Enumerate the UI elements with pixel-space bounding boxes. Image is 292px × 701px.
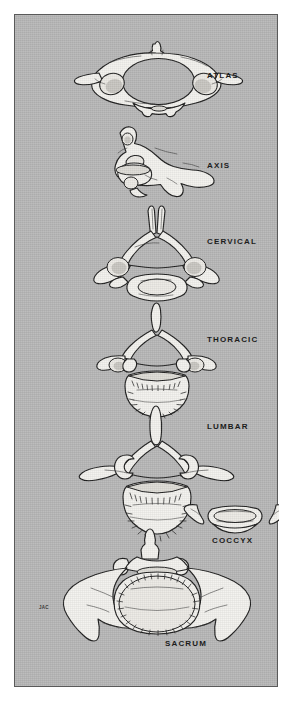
- label-coccyx: COCCYX: [212, 537, 253, 545]
- label-thoracic: THORACIC: [207, 336, 258, 344]
- label-cervical: CERVICAL: [207, 238, 257, 246]
- label-lumbar: LUMBAR: [207, 423, 249, 431]
- artist-signature: JAC: [39, 605, 49, 610]
- figure-cervical: [94, 206, 220, 301]
- figure-coccyx: [184, 505, 279, 533]
- figure-sacrum: [63, 529, 250, 641]
- illustration-plate: .bone { fill:#f3f2ee; stroke:#1d1d1d; st…: [0, 0, 292, 701]
- illustration-panel: .bone { fill:#f3f2ee; stroke:#1d1d1d; st…: [14, 14, 278, 687]
- figure-axis: [115, 127, 214, 197]
- label-axis: AXIS: [207, 162, 230, 170]
- label-sacrum: SACRUM: [165, 640, 207, 648]
- figure-thoracic: [97, 303, 216, 419]
- vertebrae-artwork: .bone { fill:#f3f2ee; stroke:#1d1d1d; st…: [15, 15, 279, 688]
- label-atlas: ATLAS: [207, 72, 239, 80]
